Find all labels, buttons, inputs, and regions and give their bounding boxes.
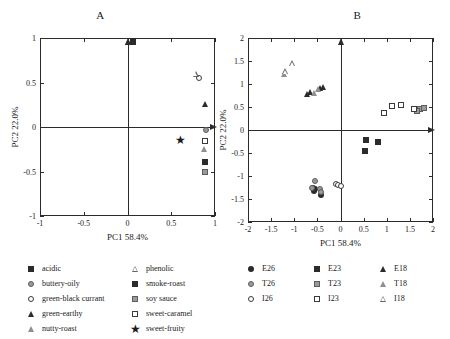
triangle-open-icon	[132, 266, 138, 272]
data-point	[203, 127, 209, 133]
y-axis-title: PC2 22.0%	[218, 109, 228, 150]
data-point	[381, 110, 387, 116]
square-filled-icon	[314, 266, 320, 272]
circle-grey-icon	[26, 279, 36, 289]
y-zero-axis	[341, 38, 342, 222]
square-filled-icon	[132, 281, 138, 287]
y-tick	[40, 216, 44, 217]
y-tick-right	[429, 38, 433, 39]
x-tick-top	[317, 38, 318, 42]
legend-row: E26E23E18	[246, 261, 446, 276]
legend-item-phenolic: phenolic	[130, 264, 222, 274]
legend-item-e18: E18	[378, 264, 444, 274]
legend-item-e26: E26	[246, 264, 312, 274]
star-icon: ★	[130, 324, 140, 334]
y-tick-right	[429, 84, 433, 85]
y-tick	[248, 130, 252, 131]
x-tick-top	[433, 38, 434, 42]
legend-item-i23: I23	[312, 294, 378, 304]
data-point	[389, 103, 395, 109]
circle-open-icon	[28, 296, 34, 302]
y-tick	[40, 83, 44, 84]
y-tick-right	[429, 130, 433, 131]
y-tick	[248, 222, 252, 223]
circle-filled-icon	[246, 264, 256, 274]
y-tick-right	[211, 38, 215, 39]
square-grey-icon	[314, 281, 320, 287]
legend-label: smoke-roast	[146, 279, 185, 288]
y-tick-right	[429, 199, 433, 200]
legend-row: green-earthysweet-caramel	[26, 306, 222, 321]
x-tick-label: 1	[213, 219, 217, 228]
panel-a: A -1-0.500.51-1-0.500.51PC1 58.4%PC2 22.…	[0, 0, 225, 255]
panel-a-title: A	[0, 9, 213, 21]
x-tick	[84, 212, 85, 216]
y-tick-label: -1.5	[222, 195, 244, 204]
triangle-filled-icon	[28, 311, 34, 317]
legend-label: soy sauce	[146, 294, 177, 303]
legend-item-green-black-currant: green-black currant	[26, 294, 130, 304]
x-tick-top	[215, 38, 216, 42]
data-point	[289, 60, 295, 66]
legend-label: green-black currant	[42, 294, 104, 303]
circle-grey-icon	[246, 279, 256, 289]
y-tick-right	[429, 176, 433, 177]
data-point	[202, 159, 208, 165]
data-point	[363, 137, 369, 143]
legend-label: buttery-oily	[42, 279, 80, 288]
y-axis-title: PC2 22.0%	[10, 106, 20, 147]
x-tick	[410, 218, 411, 222]
x-tick	[364, 218, 365, 222]
y-tick	[40, 38, 44, 39]
panel-b-legend: E26E23E18T26T23T18I26I23I18	[246, 261, 446, 306]
data-point	[375, 139, 381, 145]
circle-open-icon	[246, 294, 256, 304]
data-point	[315, 86, 321, 92]
square-filled-icon	[312, 264, 322, 274]
y-tick-label: 1	[14, 34, 36, 43]
x-tick-label: -1.5	[265, 225, 278, 234]
y-tick-label: -1	[222, 172, 244, 181]
square-filled-icon	[28, 266, 34, 272]
x-tick-top	[341, 38, 342, 42]
legend-item-sweet-fruity: ★sweet-fruity	[130, 324, 222, 334]
y-tick	[248, 176, 252, 177]
x-tick	[215, 212, 216, 216]
x-tick	[171, 212, 172, 216]
x-tick-top	[271, 38, 272, 42]
y-tick-label: 0.5	[14, 78, 36, 87]
x-tick-label: 0.5	[359, 225, 369, 234]
legend-row: T26T23T18	[246, 276, 446, 291]
x-tick	[294, 218, 295, 222]
data-point	[398, 102, 404, 108]
y-tick-right	[429, 222, 433, 223]
x-tick	[271, 218, 272, 222]
circle-grey-icon	[248, 281, 254, 287]
x-tick-label: 1.5	[405, 225, 415, 234]
square-filled-icon	[26, 264, 36, 274]
legend-row: buttery-oilysmoke-roast	[26, 276, 222, 291]
y-tick	[248, 84, 252, 85]
x-tick-label: 2	[431, 225, 435, 234]
legend-item-t23: T23	[312, 279, 378, 289]
x-tick-top	[410, 38, 411, 42]
y-tick-label: 1.5	[222, 57, 244, 66]
x-tick-top	[294, 38, 295, 42]
data-point	[202, 101, 208, 107]
data-point: ★	[175, 135, 186, 146]
y-tick-right	[211, 216, 215, 217]
x-tick-label: -0.5	[77, 219, 90, 228]
y-tick	[40, 127, 44, 128]
circle-open-icon	[26, 294, 36, 304]
legend-label: sweet-caramel	[146, 309, 192, 318]
x-tick-label: 0.5	[166, 219, 176, 228]
y-tick-label: -1	[14, 212, 36, 221]
legend-label: E23	[328, 264, 341, 273]
y-tick	[248, 38, 252, 39]
legend-label: T18	[394, 279, 407, 288]
x-tick	[433, 218, 434, 222]
x-tick-label: 0	[126, 219, 130, 228]
legend-label: sweet-fruity	[146, 324, 185, 333]
legend-row: I26I23I18	[246, 291, 446, 306]
legend-label: E26	[262, 264, 275, 273]
